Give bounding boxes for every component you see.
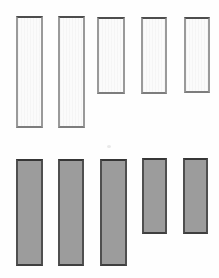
bottom-row-bar-4 (142, 158, 167, 234)
bottom-row-bar-2 (58, 159, 84, 266)
top-row-bar-4 (141, 17, 167, 94)
bottom-row-bar-3 (100, 159, 127, 266)
scan-speck (107, 145, 111, 148)
top-row-bar-1 (16, 16, 43, 128)
top-row-bar-5 (184, 17, 210, 93)
top-row-bar-2 (58, 16, 85, 128)
bottom-row-bar-5 (183, 158, 208, 234)
figure-canvas (0, 0, 219, 278)
bottom-row-bar-1 (16, 159, 43, 266)
top-row-bar-3 (97, 17, 125, 94)
